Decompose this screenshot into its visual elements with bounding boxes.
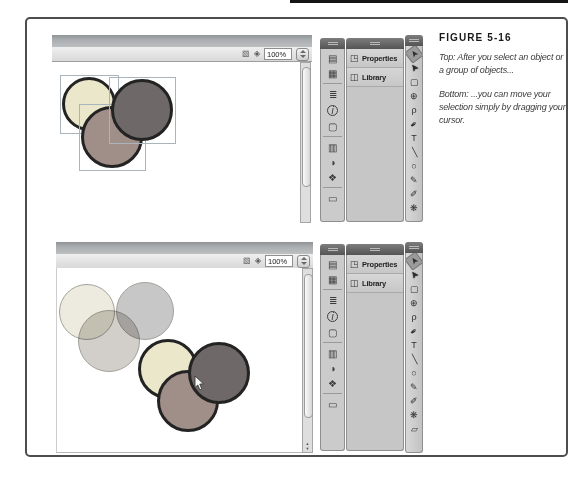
- figure-title: FIGURE 5-16: [439, 32, 569, 43]
- brush-tool-icon[interactable]: ✐: [407, 394, 421, 408]
- color-panel-icon[interactable]: ◑: [324, 155, 341, 170]
- cursor-icon: [194, 376, 205, 391]
- separator: [323, 393, 342, 394]
- scrollbar-thumb[interactable]: [302, 67, 311, 187]
- properties-label: Properties: [362, 260, 397, 269]
- library-icon: ◫: [350, 72, 359, 82]
- pencil-tool-icon[interactable]: ✎: [407, 173, 421, 187]
- code-snippets-panel-icon[interactable]: ▥: [324, 140, 341, 155]
- maroon-circle[interactable]: [111, 79, 173, 141]
- history-panel-icon[interactable]: ▤: [324, 257, 341, 272]
- dock-header[interactable]: [320, 38, 345, 49]
- figure-caption-column: FIGURE 5-16 Top: After you select an obj…: [439, 32, 569, 138]
- free-transform-tool-icon[interactable]: ▢: [407, 75, 421, 89]
- edit-scene-button[interactable]: ▧: [243, 257, 251, 265]
- properties-library-panel: ◳ Properties ◫ Library: [346, 244, 404, 452]
- scrollbar-arrows[interactable]: ▲▼: [303, 441, 312, 451]
- properties-icon: ◳: [350, 53, 359, 63]
- transform-panel-icon[interactable]: ▢: [324, 119, 341, 134]
- tools-header[interactable]: [405, 242, 423, 253]
- panel-header[interactable]: [346, 38, 404, 49]
- page-top-rule: [290, 0, 568, 3]
- edit-symbols-button[interactable]: ◈: [255, 257, 261, 265]
- panel-dock: ▤▦≣i▢▥◑❖▭: [320, 244, 345, 452]
- oval-tool-icon[interactable]: ○: [407, 366, 421, 380]
- library-panel-tab[interactable]: ◫ Library: [347, 274, 403, 293]
- vertical-scrollbar[interactable]: ▲▼: [302, 268, 313, 453]
- dock-header[interactable]: [320, 244, 345, 255]
- separator: [323, 83, 342, 84]
- library-dock-panel-icon[interactable]: ▭: [324, 397, 341, 412]
- deco-tool-icon[interactable]: ❋: [407, 201, 421, 215]
- maroon-circle[interactable]: [188, 342, 250, 404]
- separator: [323, 342, 342, 343]
- oval-tool-icon[interactable]: ○: [407, 159, 421, 173]
- properties-icon: ◳: [350, 259, 359, 269]
- separator: [323, 289, 342, 290]
- motion-presets-panel-icon[interactable]: ▦: [324, 272, 341, 287]
- vertical-scrollbar[interactable]: [300, 62, 311, 223]
- library-icon: ◫: [350, 278, 359, 288]
- pencil-tool-icon[interactable]: ✎: [407, 380, 421, 394]
- orange-circle-ghost[interactable]: [78, 310, 140, 372]
- code-snippets-panel-icon[interactable]: ▥: [324, 346, 341, 361]
- panel-header[interactable]: [346, 244, 404, 255]
- tools-palette: ➤➤▢⊕ρ✒T╲○✎✐❋▱: [405, 35, 423, 223]
- panel-dock: ▤▦≣i▢▥◑❖▭: [320, 38, 345, 223]
- edit-bar: ▧ ◈: [52, 47, 312, 62]
- edit-scene-button[interactable]: ▧: [242, 50, 250, 58]
- library-label: Library: [362, 279, 386, 288]
- eraser-tool-icon[interactable]: ▱: [407, 215, 421, 222]
- line-tool-icon[interactable]: ╲: [407, 145, 421, 159]
- edit-symbols-button[interactable]: ◈: [254, 50, 260, 58]
- library-panel-tab[interactable]: ◫ Library: [347, 68, 403, 87]
- info-panel-icon[interactable]: i: [327, 105, 338, 116]
- color-panel-icon[interactable]: ◑: [324, 361, 341, 376]
- 3d-rotation-tool-icon[interactable]: ⊕: [407, 89, 421, 103]
- history-panel-icon[interactable]: ▤: [324, 51, 341, 66]
- library-dock-panel-icon[interactable]: ▭: [324, 191, 341, 206]
- scrollbar-thumb[interactable]: [304, 274, 313, 418]
- zoom-stepper[interactable]: [297, 255, 310, 268]
- swatches-panel-icon[interactable]: ❖: [324, 170, 341, 185]
- free-transform-tool-icon[interactable]: ▢: [407, 282, 421, 296]
- transform-panel-icon[interactable]: ▢: [324, 325, 341, 340]
- library-label: Library: [362, 73, 386, 82]
- edit-bar: ▧ ◈: [56, 254, 313, 269]
- figure-caption-bottom: Bottom: ...you can move your selection s…: [439, 88, 569, 127]
- brush-tool-icon[interactable]: ✐: [407, 187, 421, 201]
- 3d-rotation-tool-icon[interactable]: ⊕: [407, 296, 421, 310]
- properties-library-panel: ◳ Properties ◫ Library: [346, 38, 404, 223]
- separator: [323, 187, 342, 188]
- zoom-level-input[interactable]: [264, 48, 292, 60]
- window-titlebar: [56, 242, 313, 254]
- figure-caption-top: Top: After you select an object or a gro…: [439, 51, 569, 77]
- figure-frame: ▧ ◈ ▤▦≣i▢▥◑❖▭ ◳ Properties ◫ Library: [25, 17, 568, 457]
- deco-tool-icon[interactable]: ❋: [407, 408, 421, 422]
- zoom-level-input[interactable]: [265, 255, 293, 267]
- separator: [323, 136, 342, 137]
- zoom-stepper[interactable]: [296, 48, 309, 61]
- align-panel-icon[interactable]: ≣: [324, 87, 341, 102]
- tools-palette: ➤➤▢⊕ρ✒T╲○✎✐❋▱: [405, 242, 423, 454]
- line-tool-icon[interactable]: ╲: [407, 352, 421, 366]
- align-panel-icon[interactable]: ≣: [324, 293, 341, 308]
- properties-panel-tab[interactable]: ◳ Properties: [347, 255, 403, 274]
- tools-header[interactable]: [405, 35, 423, 46]
- info-panel-icon[interactable]: i: [327, 311, 338, 322]
- window-titlebar: [52, 35, 312, 47]
- eraser-tool-icon[interactable]: ▱: [407, 422, 421, 436]
- properties-panel-tab[interactable]: ◳ Properties: [347, 49, 403, 68]
- swatches-panel-icon[interactable]: ❖: [324, 376, 341, 391]
- motion-presets-panel-icon[interactable]: ▦: [324, 66, 341, 81]
- screenshot-bottom: ▧ ◈ ▲▼ ▤▦≣i▢▥◑❖▭ ◳ Properties ◫: [56, 242, 423, 454]
- properties-label: Properties: [362, 54, 397, 63]
- screenshot-top: ▧ ◈ ▤▦≣i▢▥◑❖▭ ◳ Properties ◫ Library: [52, 35, 423, 223]
